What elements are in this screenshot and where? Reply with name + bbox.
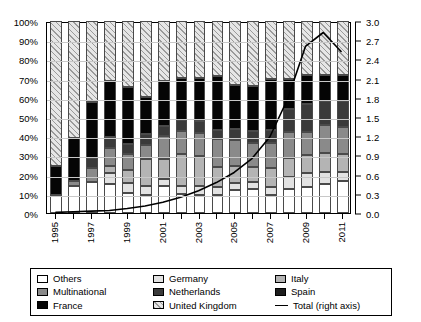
bar-segment-multinational[interactable] — [158, 136, 170, 159]
bar-segment-france[interactable] — [86, 102, 98, 158]
bar-segment-germany[interactable] — [229, 183, 241, 190]
bar-column[interactable] — [140, 21, 152, 213]
bar-segment-others[interactable] — [212, 195, 224, 213]
bar-column[interactable] — [176, 21, 188, 213]
bar-segment-multinational[interactable] — [194, 133, 206, 156]
bar-segment-netherlands[interactable] — [265, 130, 277, 142]
bar-column[interactable] — [283, 21, 295, 213]
bar-segment-germany[interactable] — [194, 186, 206, 195]
bar-segment-italy[interactable] — [104, 166, 116, 173]
bar-segment-others[interactable] — [265, 195, 277, 213]
bar-segment-germany[interactable] — [247, 182, 259, 189]
bar-segment-others[interactable] — [319, 184, 331, 213]
bar-segment-france[interactable] — [176, 78, 188, 120]
bar-segment-italy[interactable] — [265, 168, 277, 187]
bar-column[interactable] — [247, 21, 259, 213]
bar-segment-italy[interactable] — [319, 153, 331, 173]
bar-segment-uk[interactable] — [319, 21, 331, 75]
bar-column[interactable] — [194, 21, 206, 213]
legend-item[interactable]: Netherlands — [153, 287, 275, 297]
bar-segment-france[interactable] — [140, 97, 152, 133]
bar-segment-germany[interactable] — [158, 179, 170, 186]
bar-segment-netherlands[interactable] — [122, 144, 134, 155]
bar-segment-others[interactable] — [104, 184, 116, 213]
bar-segment-multinational[interactable] — [301, 132, 313, 155]
bar-segment-others[interactable] — [283, 189, 295, 213]
bar-segment-germany[interactable] — [140, 186, 152, 196]
bar-segment-uk[interactable] — [194, 21, 206, 78]
bar-segment-uk[interactable] — [229, 21, 241, 85]
bar-segment-others[interactable] — [247, 189, 259, 213]
bar-segment-germany[interactable] — [212, 187, 224, 196]
bar-column[interactable] — [122, 21, 134, 213]
bar-segment-uk[interactable] — [68, 21, 80, 138]
bar-segment-germany[interactable] — [265, 187, 277, 195]
bar-segment-germany[interactable] — [122, 183, 134, 193]
bar-column[interactable] — [104, 21, 116, 213]
bar-column[interactable] — [212, 21, 224, 213]
bar-segment-france[interactable] — [104, 81, 116, 136]
bar-segment-france[interactable] — [122, 87, 134, 144]
bar-segment-netherlands[interactable] — [194, 121, 206, 133]
bar-segment-france[interactable] — [265, 79, 277, 130]
bar-segment-netherlands[interactable] — [301, 104, 313, 132]
bar-segment-uk[interactable] — [301, 21, 313, 75]
bar-column[interactable] — [319, 21, 331, 213]
bar-segment-uk[interactable] — [140, 21, 152, 97]
bar-segment-netherlands[interactable] — [86, 158, 98, 168]
bar-segment-italy[interactable] — [283, 158, 295, 177]
bar-segment-netherlands[interactable] — [247, 131, 259, 142]
bar-segment-uk[interactable] — [158, 21, 170, 81]
bar-segment-others[interactable] — [229, 190, 241, 213]
bar-segment-multinational[interactable] — [337, 127, 349, 154]
bar-segment-netherlands[interactable] — [337, 101, 349, 126]
bar-segment-france[interactable] — [212, 76, 224, 130]
bar-segment-others[interactable] — [50, 195, 62, 213]
bar-segment-uk[interactable] — [104, 21, 116, 81]
bar-segment-italy[interactable] — [194, 156, 206, 186]
bar-column[interactable] — [265, 21, 277, 213]
bar-segment-multinational[interactable] — [265, 143, 277, 168]
bar-segment-france[interactable] — [337, 75, 349, 101]
bar-segment-netherlands[interactable] — [158, 126, 170, 136]
bar-segment-uk[interactable] — [212, 21, 224, 76]
bar-segment-germany[interactable] — [319, 172, 331, 184]
bar-segment-france[interactable] — [247, 86, 259, 132]
bar-column[interactable] — [337, 21, 349, 213]
legend-item[interactable]: Multinational — [37, 287, 153, 297]
bar-segment-others[interactable] — [176, 194, 188, 213]
bar-segment-france[interactable] — [50, 166, 62, 196]
bar-segment-france[interactable] — [68, 138, 80, 181]
bar-segment-multinational[interactable] — [86, 168, 98, 182]
bar-segment-netherlands[interactable] — [176, 120, 188, 132]
bar-segment-italy[interactable] — [140, 159, 152, 185]
bar-segment-others[interactable] — [301, 187, 313, 213]
bar-segment-multinational[interactable] — [176, 131, 188, 154]
bar-segment-multinational[interactable] — [247, 143, 259, 167]
bar-segment-others[interactable] — [194, 195, 206, 213]
bar-column[interactable] — [158, 21, 170, 213]
bar-segment-multinational[interactable] — [68, 181, 80, 186]
legend-item[interactable]: Italy — [275, 274, 393, 284]
bar-segment-france[interactable] — [319, 75, 331, 100]
legend-item[interactable]: Germany — [153, 274, 275, 284]
bar-segment-multinational[interactable] — [283, 132, 295, 157]
bar-segment-france[interactable] — [229, 85, 241, 129]
bar-column[interactable] — [229, 21, 241, 213]
bar-segment-others[interactable] — [158, 186, 170, 213]
bar-segment-italy[interactable] — [247, 167, 259, 183]
bar-segment-uk[interactable] — [337, 21, 349, 75]
bar-segment-uk[interactable] — [247, 21, 259, 86]
bar-segment-italy[interactable] — [176, 154, 188, 185]
bar-column[interactable] — [50, 21, 62, 213]
bar-segment-others[interactable] — [337, 181, 349, 213]
bar-column[interactable] — [86, 21, 98, 213]
bar-column[interactable] — [68, 21, 80, 213]
legend-item[interactable]: United Kingdom — [153, 301, 275, 311]
legend-item[interactable]: Total (right axis) — [275, 301, 393, 311]
bar-segment-netherlands[interactable] — [319, 101, 331, 125]
bar-segment-uk[interactable] — [176, 21, 188, 78]
bar-segment-netherlands[interactable] — [140, 134, 152, 146]
bar-segment-uk[interactable] — [265, 21, 277, 79]
bar-segment-others[interactable] — [140, 195, 152, 213]
